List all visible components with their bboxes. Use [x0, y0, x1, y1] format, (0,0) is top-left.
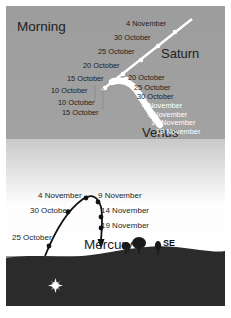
mercury-label: Mercury	[84, 238, 133, 252]
mercury-date-label: 9 November	[98, 192, 142, 200]
saturn-date-label: 4 November	[126, 20, 166, 27]
venus-date-label: 10 October	[58, 99, 95, 106]
mercury-date-label: 4 November	[38, 192, 82, 200]
venus-date-label: 30 October	[137, 93, 174, 100]
saturn-date-label: 25 October	[98, 48, 135, 55]
saturn-date-label: 10 October	[51, 87, 88, 94]
saturn-date-label: 20 October	[83, 62, 120, 69]
compass-se-label: SE	[163, 239, 175, 248]
venus-date-label: 14 November	[151, 119, 195, 126]
venus-date-label: 25 October	[134, 84, 171, 91]
sky-chart-figure: Morning Saturn Venus Mercury SE 4 Novemb…	[6, 6, 225, 306]
venus-date-label: 19 November	[156, 128, 200, 135]
venus-date-label: 20 October	[128, 74, 165, 81]
mercury-date-label: 30 October	[30, 207, 70, 215]
saturn-label: Saturn	[161, 47, 199, 60]
morning-label: Morning	[17, 20, 66, 34]
sun-starburst-icon	[48, 278, 63, 293]
mercury-date-label: 19 November	[101, 222, 149, 230]
mercury-date-label: 14 November	[101, 207, 149, 215]
saturn-date-label: 15 October	[67, 75, 104, 82]
mercury-date-label: 25 October	[12, 234, 52, 242]
venus-date-label: 4 November	[142, 102, 182, 109]
venus-date-label: 15 October	[62, 109, 99, 116]
saturn-date-label: 30 October	[114, 34, 151, 41]
